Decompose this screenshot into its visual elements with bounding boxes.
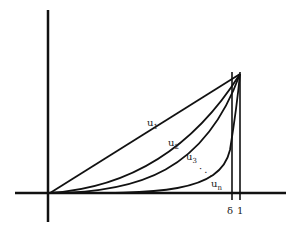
label-u3: u3 (186, 151, 197, 165)
tick-label-one: 1 (237, 205, 243, 216)
diagram-canvas: u1 u2 u3 · · · un δ 1 (0, 0, 301, 230)
tick-label-delta: δ (227, 205, 233, 216)
label-un: un (211, 178, 222, 192)
